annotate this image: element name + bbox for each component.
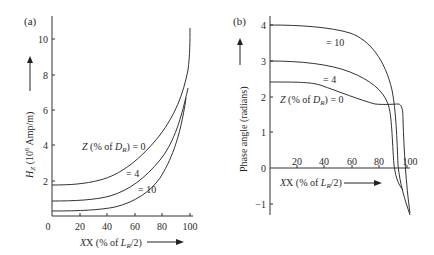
y-tick-labels: 4 3 2 1 0 −1 [255, 20, 266, 210]
panel-b: (b) 4 3 2 1 0 −1 20 40 60 [233, 15, 418, 215]
annotation-z4: = 4 [323, 74, 336, 85]
svg-text:8: 8 [43, 70, 48, 81]
annotation-z0: Z (% of DR) = 0 [82, 141, 146, 154]
curve-z10 [52, 98, 186, 211]
svg-text:1: 1 [261, 127, 266, 138]
y-axis-label: Phase angle (radians) [238, 86, 250, 172]
svg-text:60: 60 [347, 156, 357, 167]
svg-text:−1: −1 [255, 199, 266, 210]
y-axis-label: HZ (106 Amp/m) [23, 112, 37, 179]
annotation-z0: Z (% of DR) = 0 [280, 94, 344, 107]
svg-text:6: 6 [43, 105, 48, 116]
svg-text:100: 100 [183, 221, 198, 232]
panel-b-tag: (b) [233, 15, 246, 28]
svg-text:Phase angle (radians): Phase angle (radians) [238, 86, 250, 172]
x-tick-labels: 0 20 40 60 80 100 [46, 221, 198, 232]
annotation-z10: = 10 [326, 37, 344, 48]
svg-text:2: 2 [261, 92, 266, 103]
annotation-z10: = 10 [138, 184, 156, 195]
panel-a: (a) 2 4 6 8 10 0 20 40 [23, 15, 198, 250]
y-arrowhead-icon [237, 38, 243, 45]
svg-text:40: 40 [319, 156, 329, 167]
svg-text:80: 80 [374, 156, 384, 167]
annotation-z4: = 4 [126, 168, 139, 179]
svg-text:4: 4 [43, 140, 48, 151]
y-tick-labels: 2 4 6 8 10 [38, 34, 48, 187]
curve-z4 [270, 61, 403, 190]
x-axis-label: XX (% of LR/2) [79, 237, 142, 250]
svg-text:0: 0 [261, 163, 266, 174]
curves-a [52, 28, 190, 211]
svg-text:HZ (106 Amp/m): HZ (106 Amp/m) [23, 112, 37, 179]
svg-text:0: 0 [46, 221, 51, 232]
x-arrowhead-icon [374, 180, 382, 186]
y-arrowhead-icon [27, 56, 33, 63]
x-tick-labels: 20 40 60 80 100 [292, 156, 418, 167]
x-arrowhead-icon [176, 239, 184, 245]
figure: (a) 2 4 6 8 10 0 20 40 [0, 0, 434, 255]
svg-text:4: 4 [261, 20, 266, 31]
svg-text:10: 10 [38, 34, 48, 45]
svg-text:3: 3 [261, 56, 266, 67]
svg-text:80: 80 [157, 221, 167, 232]
svg-text:20: 20 [75, 221, 85, 232]
svg-text:2: 2 [43, 176, 48, 187]
svg-text:40: 40 [102, 221, 112, 232]
svg-text:20: 20 [292, 156, 302, 167]
svg-text:60: 60 [130, 221, 140, 232]
panel-a-tag: (a) [24, 15, 37, 28]
x-axis-label: XX (% of LR/2) [279, 177, 342, 190]
